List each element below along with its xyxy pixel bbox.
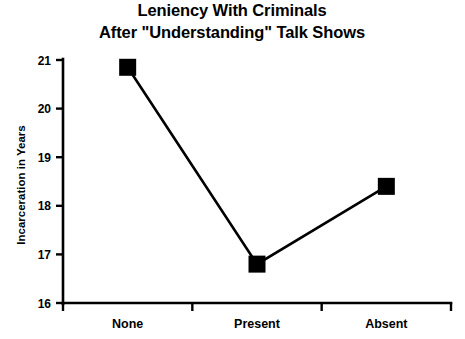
chart-container: Leniency With Criminals After "Understan… — [0, 0, 465, 339]
chart-title: Leniency With Criminals After "Understan… — [99, 1, 365, 41]
y-tick-label: 16 — [38, 297, 52, 311]
y-tick-label: 19 — [38, 151, 52, 165]
x-category-label: Present — [234, 317, 281, 331]
data-series-incarceration: None: 20.85Present: 16.8Absent: 18.4 — [119, 59, 395, 273]
y-tick-label: 21 — [38, 54, 52, 68]
x-category-label: Absent — [365, 317, 408, 331]
data-point-marker: Absent: 18.4 — [378, 178, 395, 195]
series-line-path — [128, 67, 387, 264]
y-axis-title: Incarceration in Years — [15, 125, 27, 244]
data-point-marker: Present: 16.8 — [249, 256, 266, 273]
x-axis-labels: NonePresentAbsent — [112, 317, 408, 331]
series-markers: None: 20.85Present: 16.8Absent: 18.4 — [119, 59, 395, 273]
y-axis-ticks: 161718192021 — [38, 54, 63, 311]
x-category-label: None — [112, 317, 143, 331]
leniency-line-chart: Leniency With Criminals After "Understan… — [0, 0, 465, 339]
chart-title-line-1: Leniency With Criminals — [137, 1, 326, 19]
data-point-marker: None: 20.85 — [119, 59, 136, 76]
y-tick-label: 20 — [38, 102, 52, 116]
chart-title-line-2: After "Understanding" Talk Shows — [99, 23, 365, 41]
y-tick-label: 17 — [38, 248, 52, 262]
y-tick-label: 18 — [38, 199, 52, 213]
